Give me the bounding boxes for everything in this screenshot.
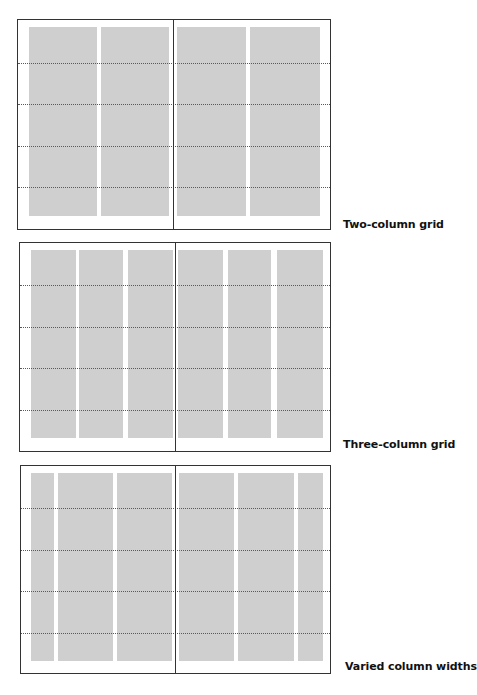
varied-widths-label: Varied column widths — [345, 660, 477, 673]
baseline-guide-line — [18, 187, 330, 188]
two-column-grid-frame — [17, 19, 331, 230]
page-spine-divider — [175, 242, 176, 452]
page-spine-divider — [173, 19, 174, 230]
three-column-label: Three-column grid — [343, 438, 455, 451]
varied-widths-grid-frame — [20, 465, 331, 674]
baseline-guide-line — [18, 63, 330, 64]
three-column-grid-frame — [19, 242, 331, 452]
two-column-label: Two-column grid — [343, 218, 444, 231]
page-spine-divider — [175, 465, 176, 674]
baseline-guide-line — [18, 104, 330, 105]
baseline-guide-line — [18, 146, 330, 147]
